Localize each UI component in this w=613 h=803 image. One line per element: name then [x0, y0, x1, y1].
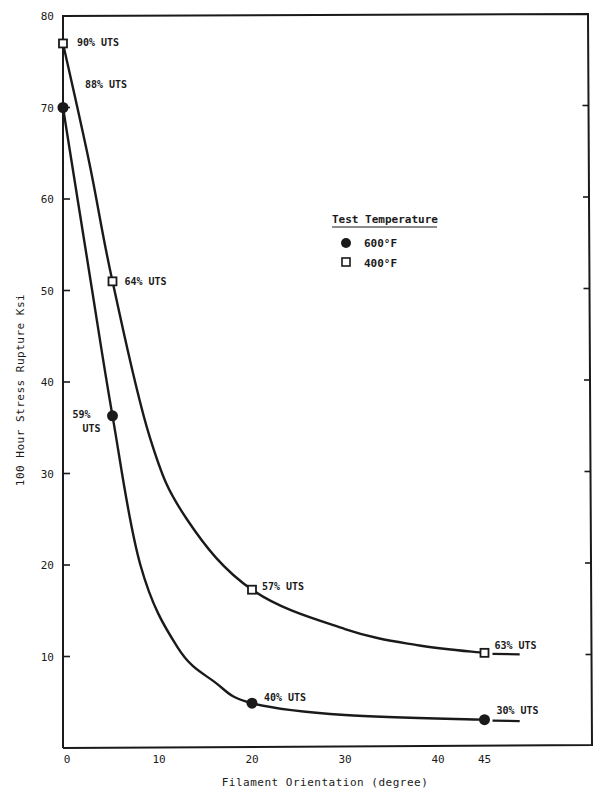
x-tick-label: 20	[245, 753, 258, 766]
curve-tail	[493, 654, 520, 655]
x-axis-ticks: 01020304045	[64, 753, 491, 766]
legend-title: Test Temperature	[332, 213, 438, 226]
y-tick-label: 40	[41, 376, 54, 389]
y-axis-ticks: 1020304050607080	[41, 10, 592, 664]
open-square-marker	[59, 39, 67, 47]
x-tick-label: 0	[64, 753, 71, 766]
uts-annotation: UTS	[83, 423, 101, 434]
open-square-icon	[342, 258, 350, 266]
open-square-marker	[481, 649, 489, 657]
uts-annotation: 30% UTS	[497, 705, 539, 716]
y-tick-label: 10	[41, 651, 54, 664]
uts-annotation: 59%	[73, 409, 91, 420]
open-square-marker	[109, 277, 117, 285]
plot-frame	[63, 14, 592, 748]
legend: Test Temperature 600°F 400°F	[332, 213, 438, 270]
data-markers	[58, 39, 491, 725]
legend-label-600f: 600°F	[364, 237, 397, 250]
y-axis-label: 100 Hour Stress Rupture Ksi	[14, 294, 27, 486]
filled-circle-icon	[341, 238, 351, 248]
uts-annotation: 40% UTS	[264, 692, 306, 703]
uts-annotation: 57% UTS	[262, 581, 304, 592]
uts-annotation: 88% UTS	[85, 79, 127, 90]
uts-annotation: 63% UTS	[495, 640, 537, 651]
x-tick-label: 10	[152, 753, 165, 766]
x-axis-label: Filament Orientation (degree)	[222, 776, 429, 789]
uts-annotation: 64% UTS	[125, 276, 167, 287]
x-tick-label: 40	[431, 753, 444, 766]
data-curves	[63, 43, 520, 721]
filled-circle-marker	[479, 714, 490, 725]
y-tick-label: 30	[41, 468, 54, 481]
y-tick-label: 60	[41, 193, 54, 206]
legend-label-400f: 400°F	[364, 257, 397, 270]
y-tick-label: 70	[41, 102, 54, 115]
curve-tail	[493, 721, 520, 722]
data-annotations: 90% UTS64% UTS57% UTS63% UTS88% UTS59%UT…	[73, 37, 539, 715]
y-tick-label: 20	[41, 559, 54, 572]
y-tick-label: 80	[41, 10, 54, 23]
filled-circle-marker	[247, 698, 258, 709]
open-square-marker	[248, 586, 256, 594]
chart: 1020304050607080 01020304045 90% UTS64% …	[0, 0, 613, 803]
curve-400f	[63, 43, 485, 652]
curve-600f	[63, 108, 485, 720]
plot-border	[63, 14, 592, 748]
uts-annotation: 90% UTS	[77, 37, 119, 48]
x-tick-label: 30	[338, 753, 351, 766]
filled-circle-marker	[58, 102, 69, 113]
filled-circle-marker	[107, 410, 118, 421]
y-tick-label: 50	[41, 285, 54, 298]
x-tick-label: 45	[478, 753, 491, 766]
